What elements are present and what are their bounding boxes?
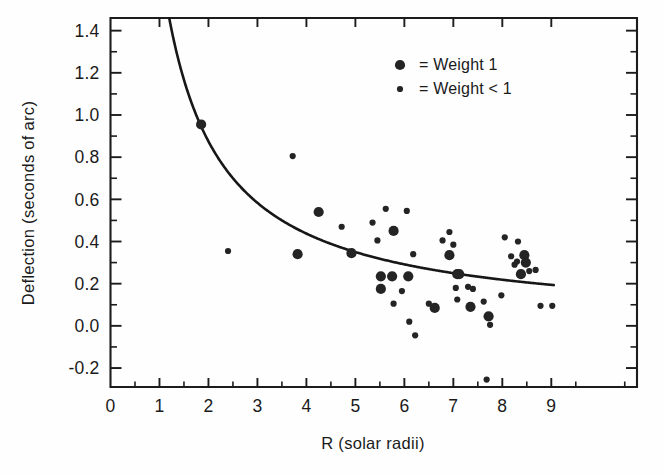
data-point-large bbox=[521, 257, 531, 267]
data-point-large bbox=[292, 249, 302, 259]
y-tick-label: 1.0 bbox=[75, 105, 100, 125]
data-point-small bbox=[339, 224, 345, 230]
data-point-small bbox=[537, 303, 543, 309]
data-point-small bbox=[390, 301, 396, 307]
scatter-plot: 0123456789 -0.20.00.20.40.60.81.01.21.4 … bbox=[0, 0, 665, 474]
data-point-small bbox=[374, 237, 380, 243]
x-tick-label: 6 bbox=[399, 396, 409, 416]
data-point-small bbox=[508, 253, 514, 259]
y-tick-label: 0.6 bbox=[75, 190, 100, 210]
x-tick-label: 5 bbox=[350, 396, 360, 416]
data-point-small bbox=[439, 237, 445, 243]
y-tick-label: 0.0 bbox=[75, 316, 100, 336]
data-point-large bbox=[387, 271, 397, 281]
data-point-small bbox=[406, 319, 412, 325]
data-point-large bbox=[465, 302, 475, 312]
data-point-large bbox=[444, 250, 454, 260]
data-point-large bbox=[346, 248, 356, 258]
y-tick-label: 0.8 bbox=[75, 147, 100, 167]
data-point-large bbox=[516, 269, 526, 279]
x-axis-title: R (solar radii) bbox=[321, 434, 425, 452]
data-point-large bbox=[484, 311, 494, 321]
data-point-small bbox=[412, 332, 418, 338]
data-point-small bbox=[533, 267, 539, 273]
y-tick-label: 0.2 bbox=[75, 274, 100, 294]
data-point-small bbox=[383, 206, 389, 212]
legend-marker-weight-1 bbox=[395, 60, 405, 70]
data-point-large bbox=[376, 271, 386, 281]
data-point-small bbox=[514, 258, 520, 264]
plot-axes bbox=[111, 18, 638, 387]
data-point-large bbox=[376, 284, 386, 294]
x-tick-label: 9 bbox=[546, 396, 556, 416]
x-tick-label: 7 bbox=[448, 396, 458, 416]
data-point-small bbox=[410, 251, 416, 257]
data-point-small bbox=[484, 377, 490, 383]
x-tick-label: 8 bbox=[497, 396, 507, 416]
y-tick-label: -0.2 bbox=[69, 358, 100, 378]
data-point-small bbox=[515, 238, 521, 244]
y-axis-title: Deflection (seconds of arc) bbox=[19, 101, 37, 305]
data-point-small bbox=[498, 292, 504, 298]
data-point-small bbox=[369, 219, 375, 225]
data-point-small bbox=[454, 296, 460, 302]
data-point-small bbox=[481, 299, 487, 305]
axis-ticks bbox=[111, 18, 638, 387]
data-point-small bbox=[487, 322, 493, 328]
data-point-large bbox=[314, 207, 324, 217]
x-tick-label: 1 bbox=[155, 396, 165, 416]
data-point-large bbox=[454, 269, 464, 279]
data-point-small bbox=[549, 303, 555, 309]
y-tick-label: 0.4 bbox=[75, 232, 100, 252]
chart-figure: 0123456789 -0.20.00.20.40.60.81.01.21.4 … bbox=[0, 0, 665, 474]
data-point-small bbox=[399, 288, 405, 294]
data-point-small bbox=[225, 248, 231, 254]
y-tick-labels: -0.20.00.20.40.60.81.01.21.4 bbox=[69, 21, 100, 378]
data-point-small bbox=[470, 286, 476, 292]
data-points-weight-1 bbox=[196, 119, 531, 321]
chart-legend: = Weight 1= Weight < 1 bbox=[395, 56, 512, 97]
y-tick-label: 1.4 bbox=[75, 21, 100, 41]
data-point-small bbox=[290, 153, 296, 159]
data-point-small bbox=[404, 208, 410, 214]
data-point-small bbox=[453, 285, 459, 291]
legend-label: = Weight 1 bbox=[419, 56, 498, 73]
x-tick-label: 2 bbox=[203, 396, 213, 416]
data-point-small bbox=[446, 229, 452, 235]
data-point-large bbox=[388, 226, 398, 236]
data-point-large bbox=[403, 271, 413, 281]
y-tick-label: 1.2 bbox=[75, 63, 100, 83]
legend-marker-weight-lt-1 bbox=[397, 86, 403, 92]
legend-label: = Weight < 1 bbox=[419, 80, 512, 97]
data-point-large bbox=[196, 119, 206, 129]
data-point-small bbox=[450, 242, 456, 248]
data-point-small bbox=[502, 234, 508, 240]
data-points-weight-lt-1 bbox=[225, 153, 555, 383]
x-tick-label: 4 bbox=[301, 396, 311, 416]
data-point-small bbox=[526, 268, 532, 274]
x-tick-labels: 0123456789 bbox=[106, 396, 557, 416]
x-tick-label: 0 bbox=[106, 396, 116, 416]
data-point-large bbox=[430, 303, 440, 313]
x-tick-label: 3 bbox=[252, 396, 262, 416]
